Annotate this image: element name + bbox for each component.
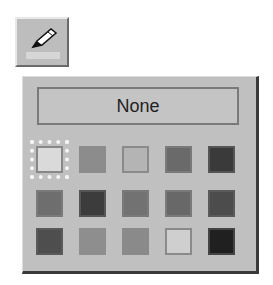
- color-swatch[interactable]: [122, 146, 149, 173]
- color-swatch[interactable]: [165, 228, 192, 255]
- color-swatch[interactable]: [36, 146, 63, 173]
- color-swatch[interactable]: [79, 190, 106, 217]
- pen-color-button[interactable]: [15, 17, 69, 67]
- color-swatch[interactable]: [208, 146, 235, 173]
- color-swatch[interactable]: [122, 228, 149, 255]
- color-swatch[interactable]: [165, 146, 192, 173]
- color-swatch[interactable]: [36, 190, 63, 217]
- current-color-indicator: [26, 52, 60, 59]
- pencil-icon: [29, 25, 59, 51]
- color-swatch[interactable]: [79, 228, 106, 255]
- color-swatch[interactable]: [208, 228, 235, 255]
- color-swatch[interactable]: [36, 228, 63, 255]
- color-swatch[interactable]: [79, 146, 106, 173]
- color-swatch[interactable]: [165, 190, 192, 217]
- no-color-button[interactable]: None: [37, 87, 239, 125]
- color-palette-popup: None: [22, 76, 259, 274]
- color-swatch[interactable]: [122, 190, 149, 217]
- color-swatch[interactable]: [208, 190, 235, 217]
